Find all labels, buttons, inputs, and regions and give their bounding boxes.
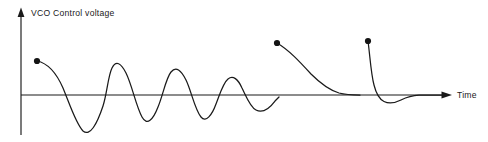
overdamped-response-path [277,43,360,95]
critically-damped-response-path [368,41,442,103]
critically-damped-start-marker [365,38,371,44]
arrow-right-icon [442,91,453,98]
x-axis-label: Time [457,90,477,100]
trace-overdamped-response [274,40,360,95]
y-axis-group [18,8,25,136]
underdamped-response-path [37,61,279,132]
figure-canvas: VCO Control voltage Time [0,0,488,142]
underdamped-start-marker [34,58,40,64]
x-axis-group [21,91,452,98]
overdamped-start-marker [274,40,280,46]
arrow-up-icon [18,8,25,18]
vco-control-voltage-figure: VCO Control voltage Time [0,0,488,142]
trace-critically-damped-response [365,38,442,103]
y-axis-label: VCO Control voltage [31,8,115,18]
